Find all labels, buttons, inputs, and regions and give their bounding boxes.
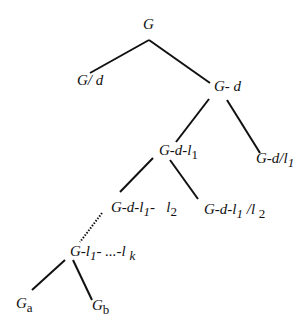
edge-g-minus-d-to-g-d-div-l1 <box>227 100 260 153</box>
node-g-d-l1-div-l2-sub2: 2 <box>259 206 266 221</box>
node-g-d-l1-div-l2-main: G-d-l <box>204 201 237 217</box>
node-g-d-l1: G-d-l1 <box>159 143 198 161</box>
node-gb-sub: b <box>103 302 110 317</box>
node-g-d-l1-l2-mid: - l <box>150 199 170 215</box>
node-g-div-d-label: G/ d <box>77 72 103 88</box>
node-g-l1-lk-sub2: k <box>129 248 135 263</box>
node-g-d-l1-l2-main: G-d-l <box>111 199 144 215</box>
node-g-l1-lk-main: G-l <box>70 243 90 259</box>
edge-root-to-g-div-d <box>90 40 149 73</box>
node-root: G <box>143 17 154 32</box>
edge-g-l1-lk-to-gb <box>73 260 92 300</box>
node-g-d-div-l1-main: G-d/l <box>256 150 288 166</box>
node-ga-main: G <box>16 295 27 311</box>
node-g-d-l1-l2-sub2: 2 <box>170 204 177 219</box>
node-ga: Ga <box>16 296 33 314</box>
edge-g-d-l1-l2-to-g-l1-lk-dotted <box>80 213 102 242</box>
node-g-d-l1-main: G-d-l <box>159 142 192 158</box>
node-g-d-l1-div-l2-mid: /l <box>243 201 259 217</box>
node-gb-main: G <box>92 297 103 313</box>
node-g-div-d: G/ d <box>77 73 103 88</box>
node-gb: Gb <box>92 298 109 316</box>
node-g-d-l1-div-l2: G-d-l1 /l 2 <box>204 202 265 220</box>
node-g-l1-lk-mid: - ...-l <box>97 243 130 259</box>
edge-root-to-g-minus-d <box>149 40 210 83</box>
node-g-l1-lk: G-l1- ...-l k <box>70 244 135 262</box>
edge-g-l1-lk-to-ga <box>32 260 65 290</box>
node-g-minus-d: G- d <box>214 79 241 94</box>
edge-g-d-l1-to-g-d-l1-div-l2 <box>170 160 198 199</box>
node-ga-sub: a <box>27 300 33 315</box>
edge-g-d-l1-to-g-d-l1-l2 <box>120 158 153 192</box>
node-root-label: G <box>143 16 154 32</box>
node-g-d-div-l1: G-d/l1 <box>256 151 294 169</box>
tree-diagram: G G/ d G- d G-d-l1 G-d/l1 G-d-l1- l2 G-d… <box>0 0 305 330</box>
node-g-d-l1-sub: 1 <box>192 147 199 162</box>
node-g-d-div-l1-sub: 1 <box>288 155 295 170</box>
edge-g-minus-d-to-g-d-l1 <box>176 99 209 142</box>
node-g-d-l1-l2: G-d-l1- l2 <box>111 200 177 218</box>
node-g-minus-d-label: G- d <box>214 78 241 94</box>
